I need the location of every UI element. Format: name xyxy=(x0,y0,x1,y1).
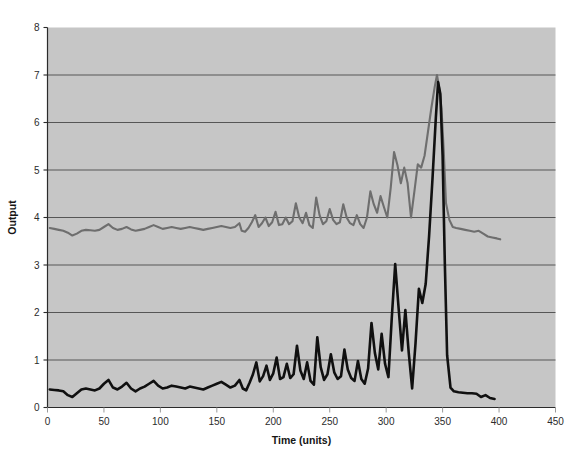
x-tick-label: 450 xyxy=(547,416,564,427)
y-axis-title: Output xyxy=(6,200,18,235)
y-tick-label: 4 xyxy=(34,212,40,223)
x-axis-title: Time (units) xyxy=(272,434,331,446)
x-tick-label: 150 xyxy=(208,416,225,427)
y-tick-label: 3 xyxy=(34,260,40,271)
x-tick-label: 300 xyxy=(378,416,395,427)
line-chart: 012345678 050100150200250300350400450 Ti… xyxy=(0,0,587,464)
y-tick-label: 6 xyxy=(34,117,40,128)
y-tick-label: 2 xyxy=(34,307,40,318)
y-tick-label: 5 xyxy=(34,165,40,176)
x-tick-label: 350 xyxy=(434,416,451,427)
x-tick-label: 0 xyxy=(45,416,51,427)
x-tick-label: 50 xyxy=(98,416,110,427)
x-tick-label: 200 xyxy=(265,416,282,427)
y-tick-label: 0 xyxy=(34,402,40,413)
x-tick-label: 100 xyxy=(152,416,169,427)
x-tick-label: 400 xyxy=(491,416,508,427)
chart-container: 012345678 050100150200250300350400450 Ti… xyxy=(0,0,587,464)
x-tick-label: 250 xyxy=(321,416,338,427)
y-tick-label: 7 xyxy=(34,70,40,81)
y-tick-label: 8 xyxy=(34,22,40,33)
y-tick-label: 1 xyxy=(34,355,40,366)
